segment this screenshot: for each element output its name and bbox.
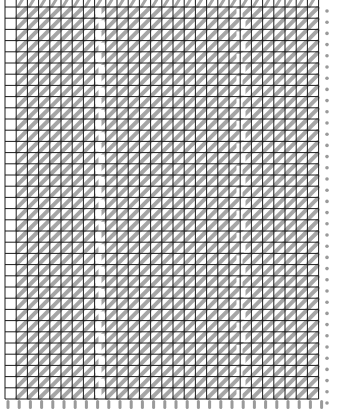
hatch-stroke: [264, 366, 273, 375]
hatch-stroke: [219, 165, 228, 174]
hatch-stroke: [73, 8, 82, 17]
hatch-stroke: [275, 221, 284, 230]
hatch-stroke: [28, 86, 37, 95]
hatch-stroke: [275, 243, 284, 252]
hatch-stroke: [73, 266, 82, 275]
diagonal-hatch-layer: [17, 0, 317, 398]
hatch-stroke: [297, 42, 306, 51]
hatch-stroke: [62, 98, 71, 107]
hatch-stroke: [28, 154, 37, 163]
hatch-stroke: [28, 333, 37, 342]
hatch-stroke: [208, 142, 217, 151]
pin-mark: [18, 400, 21, 409]
hatch-stroke: [152, 254, 161, 263]
hatch-stroke: [17, 389, 26, 398]
hatch-stroke: [84, 109, 93, 118]
gap-segment: [237, 255, 243, 263]
gap-segment: [99, 222, 105, 230]
pin-mark: [85, 400, 88, 409]
hatch-stroke: [163, 64, 172, 73]
hatch-stroke: [264, 378, 273, 387]
hatch-stroke: [62, 165, 71, 174]
hatch-stroke: [196, 75, 205, 84]
hatch-stroke: [129, 131, 138, 140]
hatch-stroke: [84, 176, 93, 185]
hatch-stroke: [28, 366, 37, 375]
hatch-stroke: [40, 288, 49, 297]
gap-segment: [96, 99, 102, 107]
hatch-stroke: [230, 198, 239, 207]
hatch-stroke: [62, 8, 71, 17]
hatch-stroke: [51, 288, 60, 297]
hatch-stroke: [62, 198, 71, 207]
hatch-stroke: [40, 187, 49, 196]
hatch-stroke: [163, 243, 172, 252]
hatch-stroke: [40, 154, 49, 163]
hatch-stroke: [196, 98, 205, 107]
hatch-stroke: [51, 109, 60, 118]
hatch-stroke: [17, 86, 26, 95]
hatch-stroke: [51, 120, 60, 129]
hatch-stroke: [208, 221, 217, 230]
pin-mark: [107, 400, 110, 409]
hatch-stroke: [297, 120, 306, 129]
hatch-stroke: [51, 333, 60, 342]
hatch-stroke: [219, 210, 228, 219]
hatch-stroke: [28, 277, 37, 286]
hatch-stroke: [196, 109, 205, 118]
hatch-stroke: [308, 64, 317, 73]
hatch-stroke: [129, 378, 138, 387]
hatch-stroke: [17, 288, 26, 297]
hatch-stroke: [28, 165, 37, 174]
hatch-stroke: [51, 165, 60, 174]
hatch-stroke: [308, 53, 317, 62]
pin-mark: [7, 400, 10, 409]
hatch-stroke: [174, 19, 183, 28]
pin-mark: [175, 400, 178, 409]
hatch-stroke: [153, 0, 157, 7]
hatch-stroke: [129, 30, 138, 39]
hatch-stroke: [84, 75, 93, 84]
hatch-stroke: [219, 120, 228, 129]
hatch-stroke: [129, 254, 138, 263]
hatch-stroke: [40, 75, 49, 84]
hatch-stroke: [118, 221, 127, 230]
hatch-stroke: [297, 64, 306, 73]
hatch-stroke: [140, 210, 149, 219]
hatch-stroke: [84, 30, 93, 39]
hatch-stroke: [28, 8, 37, 17]
hatch-stroke: [84, 322, 93, 331]
hatch-stroke: [308, 176, 317, 185]
hatch-stroke: [40, 232, 49, 241]
hatch-stroke: [118, 288, 127, 297]
edge-dot: [325, 132, 329, 136]
hatch-stroke: [84, 42, 93, 51]
hatch-stroke: [140, 131, 149, 140]
hatch-stroke: [163, 389, 172, 398]
hatch-stroke: [252, 355, 261, 364]
hatch-stroke: [140, 176, 149, 185]
hatch-stroke: [84, 142, 93, 151]
hatch-stroke: [73, 366, 82, 375]
hatch-stroke: [62, 109, 71, 118]
hatch-stroke: [308, 344, 317, 353]
hatch-stroke: [73, 64, 82, 73]
hatch-stroke: [241, 98, 250, 107]
hatch-stroke: [74, 0, 78, 7]
hatch-stroke: [107, 210, 116, 219]
hatch-stroke: [196, 378, 205, 387]
hatch-stroke: [129, 53, 138, 62]
hatch-stroke: [185, 98, 194, 107]
gap-segment: [99, 311, 105, 319]
gap-segment: [237, 54, 243, 62]
hatch-stroke: [197, 0, 201, 7]
hatch-stroke: [185, 277, 194, 286]
hatch-stroke: [51, 232, 60, 241]
hatch-stroke: [140, 154, 149, 163]
edge-dot: [325, 401, 329, 405]
hatch-stroke: [185, 8, 194, 17]
hatch-stroke: [107, 42, 116, 51]
hatch-stroke: [219, 19, 228, 28]
hatch-stroke: [241, 165, 250, 174]
hatch-stroke: [185, 198, 194, 207]
